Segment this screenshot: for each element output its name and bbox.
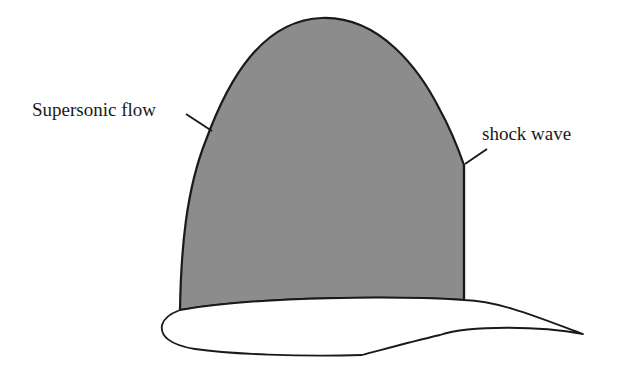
supersonic-region: [180, 18, 464, 310]
shock-wave-label: shock wave: [482, 124, 571, 143]
supersonic-flow-leader-line: [186, 114, 212, 131]
supersonic-flow-label: Supersonic flow: [32, 100, 156, 119]
supersonic-flow-diagram: Supersonic flow shock wave: [0, 0, 620, 372]
shock-wave-leader-line: [465, 149, 487, 164]
airfoil: [162, 298, 583, 356]
diagram-canvas: [0, 0, 620, 372]
